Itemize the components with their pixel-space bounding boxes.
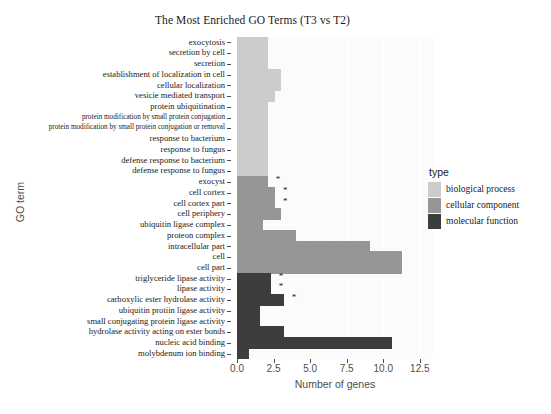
y-tick-mark xyxy=(227,268,231,269)
x-tick-label: 7.5 xyxy=(340,363,354,374)
significance-asterisk: * xyxy=(276,174,281,184)
legend-label: cellular component xyxy=(446,200,519,210)
y-tick-mark xyxy=(227,354,231,355)
chart-title: The Most Enriched GO Terms (T3 vs T2) xyxy=(0,14,505,26)
y-tick-mark xyxy=(227,311,231,312)
legend-entry-cellular-component[interactable]: cellular component xyxy=(428,197,546,213)
bar-row xyxy=(237,348,433,360)
significance-asterisk: * xyxy=(292,292,297,302)
significance-asterisk: * xyxy=(283,185,288,195)
y-tick-mark xyxy=(227,42,231,43)
y-tick-label: molybdenum ion binding xyxy=(138,348,225,360)
legend-label: molecular function xyxy=(446,216,518,226)
y-tick-mark xyxy=(227,96,231,97)
y-tick-mark xyxy=(227,107,231,108)
y-tick-mark xyxy=(227,128,231,129)
y-tick-mark xyxy=(227,225,231,226)
y-tick-mark xyxy=(227,150,231,151)
x-tick-label: 10.0 xyxy=(374,363,393,374)
legend: type biological processcellular componen… xyxy=(428,166,546,229)
legend-swatch xyxy=(428,214,441,229)
significance-asterisk: * xyxy=(279,271,284,281)
y-tick-mark xyxy=(227,64,231,65)
legend-entries: biological processcellular componentmole… xyxy=(428,181,546,229)
y-tick-mark xyxy=(227,182,231,183)
legend-swatch xyxy=(428,198,441,213)
y-tick-mark xyxy=(227,193,231,194)
significance-asterisk: * xyxy=(279,281,284,291)
y-tick-mark xyxy=(227,171,231,172)
y-tick-mark xyxy=(227,343,231,344)
significance-asterisk: * xyxy=(283,196,288,206)
y-tick-mark xyxy=(227,118,231,119)
y-tick-mark xyxy=(227,300,231,301)
y-tick-mark xyxy=(227,289,231,290)
legend-swatch xyxy=(428,182,441,197)
legend-label: biological process xyxy=(446,184,515,194)
y-tick-mark xyxy=(227,321,231,322)
y-tick-mark xyxy=(227,203,231,204)
x-tick-label: 12.5 xyxy=(410,363,429,374)
x-axis-title: Number of genes xyxy=(237,378,433,390)
y-tick-mark xyxy=(227,236,231,237)
y-tick-mark xyxy=(227,246,231,247)
y-tick-mark xyxy=(227,139,231,140)
go-enrichment-bar-chart: The Most Enriched GO Terms (T3 vs T2) GO… xyxy=(0,0,551,414)
legend-title: type xyxy=(428,166,546,178)
y-tick-mark xyxy=(227,279,231,280)
x-tick-label: 2.5 xyxy=(267,363,281,374)
y-tick-mark xyxy=(227,160,231,161)
y-tick-mark xyxy=(227,75,231,76)
bar xyxy=(237,348,249,360)
bars-layer: ****** xyxy=(237,37,433,359)
y-tick-mark xyxy=(227,53,231,54)
y-tick-mark xyxy=(227,332,231,333)
x-tick-label: 0.0 xyxy=(230,363,244,374)
legend-entry-molecular-function[interactable]: molecular function xyxy=(428,213,546,229)
x-tick-label: 5.0 xyxy=(303,363,317,374)
x-axis-tick-labels: 0.02.55.07.510.012.5 xyxy=(237,363,433,377)
y-axis-tick-labels: exocytosissecretion by cellsecretionesta… xyxy=(0,37,231,359)
y-tick-mark xyxy=(227,214,231,215)
y-tick-mark xyxy=(227,257,231,258)
y-tick-mark xyxy=(227,85,231,86)
plot-panel: ****** xyxy=(237,37,433,359)
legend-entry-biological-process[interactable]: biological process xyxy=(428,181,546,197)
